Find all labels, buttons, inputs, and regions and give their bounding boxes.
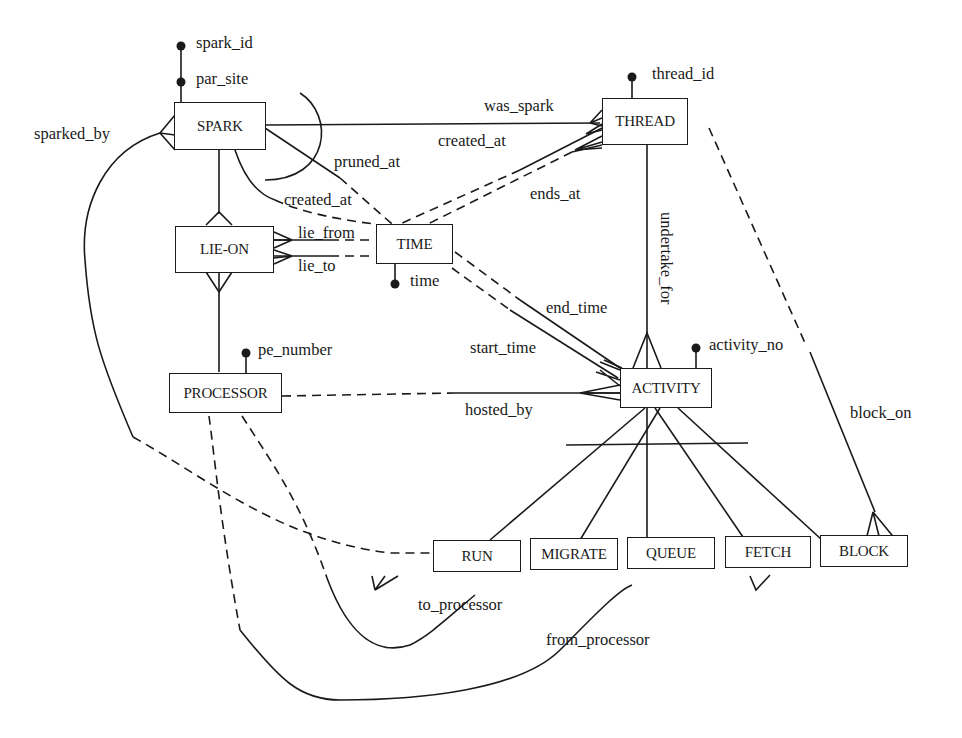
- edge-was-spark: [265, 123, 600, 125]
- entity-label: PROCESSOR: [183, 385, 267, 402]
- rel-created-at-thread: created_at: [438, 131, 506, 151]
- rel-block-on: block_on: [850, 403, 911, 423]
- attr-thread-id: thread_id: [652, 64, 714, 84]
- entity-processor[interactable]: PROCESSOR: [169, 373, 282, 413]
- entity-label: BLOCK: [839, 543, 889, 560]
- rel-to-processor: to_processor: [418, 595, 502, 615]
- attr-activity-no: activity_no: [709, 335, 783, 355]
- rel-created-at-spark: created_at: [284, 190, 352, 210]
- entity-block[interactable]: BLOCK: [820, 535, 908, 567]
- entity-fetch[interactable]: FETCH: [725, 536, 811, 568]
- attribute-markers: [177, 42, 701, 374]
- subtype-partition: [490, 408, 822, 540]
- attr-time: time: [410, 271, 439, 291]
- rel-pruned-at: pruned_at: [334, 152, 400, 172]
- attr-spark-id: spark_id: [196, 33, 253, 53]
- attr-par-site: par_site: [196, 69, 248, 89]
- entity-label: TIME: [397, 236, 433, 253]
- diagram-lines: [0, 0, 962, 738]
- rel-from-processor: from_processor: [546, 630, 650, 650]
- entity-label: THREAD: [615, 113, 675, 130]
- entity-queue[interactable]: QUEUE: [627, 537, 715, 569]
- entity-run[interactable]: RUN: [433, 540, 521, 572]
- entity-label: LIE-ON: [200, 241, 249, 258]
- entity-lie-on[interactable]: LIE-ON: [175, 226, 274, 273]
- entity-label: QUEUE: [646, 545, 696, 562]
- rel-sparked-by: sparked_by: [34, 124, 110, 144]
- rel-ends-at: ends_at: [530, 184, 580, 204]
- rel-undertake-for: undertake_for: [656, 212, 676, 305]
- rel-lie-from: lie_from: [298, 223, 355, 243]
- entity-migrate[interactable]: MIGRATE: [530, 538, 618, 570]
- entity-thread[interactable]: THREAD: [602, 98, 688, 145]
- entity-activity[interactable]: ACTIVITY: [620, 368, 712, 408]
- rel-was-spark: was_spark: [484, 96, 554, 116]
- entity-label: MIGRATE: [541, 546, 606, 563]
- rel-hosted-by: hosted_by: [465, 400, 533, 420]
- entity-label: SPARK: [197, 118, 243, 135]
- entity-time[interactable]: TIME: [376, 224, 453, 264]
- entity-label: FETCH: [745, 544, 792, 561]
- rel-start-time: start_time: [470, 338, 536, 358]
- entity-spark[interactable]: SPARK: [174, 102, 266, 150]
- rel-lie-to: lie_to: [298, 256, 336, 276]
- er-diagram: SPARK THREAD LIE-ON TIME PROCESSOR ACTIV…: [0, 0, 962, 738]
- entity-label: RUN: [461, 548, 492, 565]
- rel-end-time: end_time: [546, 298, 607, 318]
- attr-pe-number: pe_number: [258, 340, 332, 360]
- entity-label: ACTIVITY: [631, 380, 700, 397]
